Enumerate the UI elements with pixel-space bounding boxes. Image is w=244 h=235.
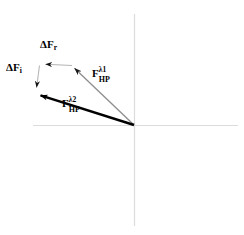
label-f-hp-lambda1-symbol: F [92,67,99,79]
label-f-hp-lambda2-symbol: F [62,97,69,109]
axes-group [33,14,238,226]
label-delta-f-i: ΔFi [6,62,22,73]
label-delta-f-i-subscript: i [20,66,22,75]
label-f-hp-lambda1-subscript: HP [99,76,110,84]
label-delta-f-r: ΔFr [40,39,57,50]
diagram-canvas [0,0,244,235]
label-f-hp-lambda2-subscript: HP [69,106,80,114]
vector-f-hp-lambda2 [41,95,135,125]
label-f-hp-lambda1: Fλ1HP [92,68,99,79]
label-delta-f-r-symbol: ΔF [40,38,54,50]
vector-delta-f-i [37,66,40,88]
vector-diagram-figure: ΔFr ΔFi Fλ1HP Fλ2HP [0,0,244,235]
label-delta-f-i-symbol: ΔF [6,61,20,73]
vector-delta-f-r [46,64,73,65]
label-f-hp-lambda1-superscript: λ1 [99,66,106,74]
label-delta-f-r-subscript: r [54,43,57,52]
label-f-hp-lambda2-superscript: λ2 [69,96,76,104]
label-f-hp-lambda2: Fλ2HP [62,98,69,109]
